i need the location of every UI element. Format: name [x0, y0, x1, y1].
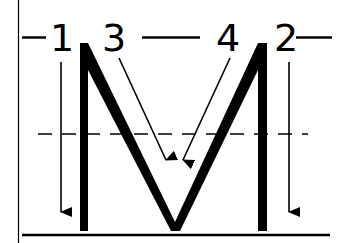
stroke-number-3: 3 — [102, 16, 126, 60]
stroke-number-1: 1 — [50, 16, 74, 60]
stroke-number-4: 4 — [216, 16, 240, 60]
stroke-number-2: 2 — [274, 16, 298, 60]
arrow-stroke-4 — [183, 58, 230, 160]
letter-m-shape — [80, 43, 267, 231]
stroke-order-diagram: 1 3 4 2 — [0, 0, 352, 243]
arrow-stroke-3 — [119, 58, 166, 160]
